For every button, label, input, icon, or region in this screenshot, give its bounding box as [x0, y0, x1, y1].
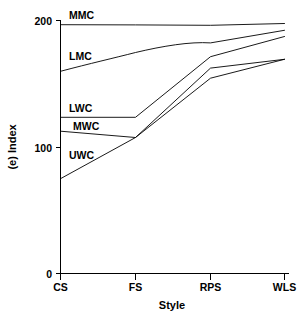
chart-canvas: 200 100 0 CS FS RPS WLS Style (e) Index: [0, 0, 308, 319]
series-line-lwc: [61, 37, 285, 118]
x-tick-labels-group: CS FS RPS WLS: [53, 281, 296, 293]
x-ticks-group: [61, 274, 285, 280]
series-group: [61, 24, 285, 179]
x-tick-label-cs: CS: [53, 281, 68, 293]
y-tick-label-0: 0: [46, 268, 52, 280]
series-labels-group: MMC LMC LWC MWC UWC: [69, 9, 100, 161]
y-axis-title: (e) Index: [6, 124, 18, 170]
series-label-mwc: MWC: [73, 120, 100, 132]
y-tick-label-200: 200: [34, 15, 52, 27]
series-label-lwc: LWC: [69, 102, 93, 114]
series-label-uwc: UWC: [69, 149, 94, 161]
series-line-mmc: [61, 24, 285, 26]
y-tick-label-100: 100: [34, 142, 52, 154]
x-tick-label-fs: FS: [129, 281, 142, 293]
x-tick-label-rps: RPS: [200, 281, 222, 293]
series-line-uwc: [61, 59, 285, 178]
y-tick-labels-group: 200 100 0: [34, 15, 52, 280]
x-tick-label-wls: WLS: [273, 281, 296, 293]
y-ticks-group: [56, 21, 61, 274]
line-chart-figure: 200 100 0 CS FS RPS WLS Style (e) Index: [0, 0, 308, 319]
series-label-mmc: MMC: [69, 9, 94, 21]
series-line-lmc: [61, 30, 285, 71]
x-axis-title: Style: [159, 299, 185, 311]
series-label-lmc: LMC: [69, 50, 92, 62]
axes-group: [61, 21, 289, 274]
